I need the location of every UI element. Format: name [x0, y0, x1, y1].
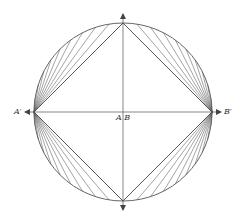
label-b-prime: B′ — [224, 108, 232, 116]
label-a-prime: A′ — [14, 108, 22, 116]
circle-fan-diagram — [0, 0, 244, 221]
label-center-ab: A B — [116, 114, 130, 122]
